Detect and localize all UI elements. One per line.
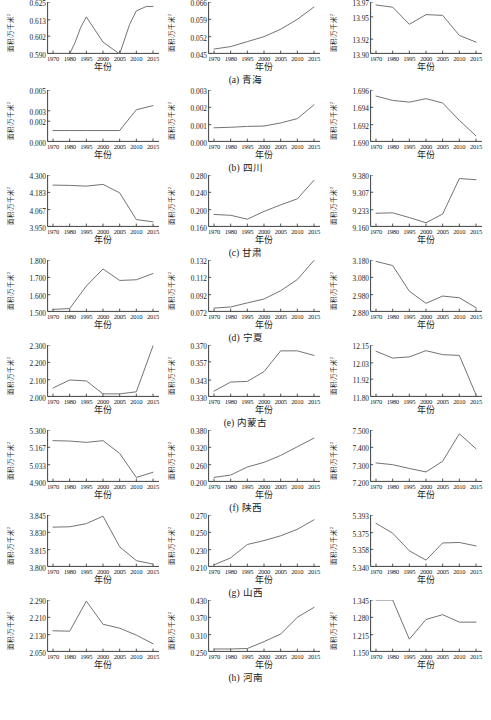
y-tick-label: 3.800 bbox=[30, 565, 46, 572]
y-tick-label: 0.380 bbox=[191, 428, 207, 435]
y-tick-label: 13.92 bbox=[353, 37, 369, 44]
plot-area bbox=[47, 515, 159, 567]
y-tick-label: 0.343 bbox=[191, 378, 207, 385]
y-tick-labels: 13.9013.9213.9513.97 bbox=[336, 2, 369, 54]
data-series-line bbox=[53, 346, 153, 394]
y-tick-label: 0.230 bbox=[191, 548, 207, 555]
x-axis-label: 年份 bbox=[47, 490, 159, 501]
y-tick-labels: 0.2100.2300.2500.270 bbox=[174, 515, 207, 567]
chart-row: 面积/万千米21.5001.6001.7001.8001970198019952… bbox=[0, 258, 491, 343]
small-multiples-figure: 面积/万千米20.5900.6020.6130.6251970198019952… bbox=[0, 0, 491, 720]
y-tick-label: 1.690 bbox=[353, 140, 369, 147]
y-tick-label: 0.625 bbox=[30, 0, 46, 7]
plot-area bbox=[47, 345, 159, 397]
y-tick-label: 0.003 bbox=[191, 88, 207, 95]
chart-panel-e3: 面积/万千米211.8011.9212.0312.151970198019952… bbox=[325, 343, 488, 415]
row-caption-index: (h) bbox=[228, 672, 239, 683]
row-caption-name: 河南 bbox=[243, 672, 263, 683]
y-tick-label: 0.357 bbox=[191, 360, 207, 367]
y-tick-label: 3.180 bbox=[353, 258, 369, 265]
data-series-line bbox=[214, 607, 314, 649]
y-tick-labels: 0.2000.2600.3200.380 bbox=[174, 430, 207, 482]
plot-area bbox=[370, 175, 482, 227]
y-tick-label: 0.210 bbox=[191, 565, 207, 572]
data-series-line bbox=[376, 261, 476, 307]
row-caption-index: (e) bbox=[224, 417, 235, 428]
row-caption: (a)青海 bbox=[0, 74, 491, 86]
data-series-line bbox=[214, 105, 314, 128]
y-tick-label: 5.167 bbox=[30, 446, 46, 453]
y-tick-label: 3.950 bbox=[30, 225, 46, 232]
plot-area bbox=[208, 600, 320, 652]
x-axis-label: 年份 bbox=[208, 62, 320, 73]
plot-area bbox=[370, 260, 482, 312]
data-series-line bbox=[376, 179, 476, 223]
y-tick-label: 0.059 bbox=[191, 18, 207, 25]
y-tick-label: 2.880 bbox=[353, 310, 369, 317]
chart-panel-e2: 面积/万千米20.3300.3430.3570.3701970198019952… bbox=[163, 343, 326, 415]
y-tick-label: 11.80 bbox=[353, 395, 369, 402]
y-tick-label: 0.112 bbox=[191, 276, 207, 283]
y-tick-labels: 4.9005.0335.1675.300 bbox=[13, 430, 46, 482]
x-axis-label: 年份 bbox=[208, 575, 320, 586]
y-tick-label: 1.700 bbox=[30, 276, 46, 283]
x-axis-label: 年份 bbox=[370, 660, 482, 671]
y-tick-labels: 0.2500.3100.3700.430 bbox=[174, 600, 207, 652]
data-series-line bbox=[214, 180, 314, 219]
y-tick-label: 0.005 bbox=[30, 88, 46, 95]
chart-panel-g2: 面积/万千米20.2100.2300.2500.2701970198019952… bbox=[163, 513, 326, 585]
y-tick-label: 0.092 bbox=[191, 293, 207, 300]
y-tick-label: 0.052 bbox=[191, 35, 207, 42]
row-caption-name: 青海 bbox=[242, 74, 262, 85]
chart-panel-h2: 面积/万千米20.2500.3100.3700.4301970198019952… bbox=[163, 598, 326, 670]
y-tick-label: 0.200 bbox=[191, 208, 207, 215]
chart-panel-b3: 面积/万千米21.6901.6921.6941.6961970198019952… bbox=[325, 88, 488, 160]
y-tick-labels: 7.2007.3007.4007.500 bbox=[336, 430, 369, 482]
x-axis-label: 年份 bbox=[208, 320, 320, 331]
y-tick-label: 13.97 bbox=[353, 0, 369, 7]
y-tick-label: 7.500 bbox=[353, 428, 369, 435]
data-series-line bbox=[53, 269, 153, 309]
chart-row: 面积/万千米23.9504.0674.1834.3001970198019952… bbox=[0, 173, 491, 258]
y-tick-label: 0.270 bbox=[191, 513, 207, 520]
chart-panel-d1: 面积/万千米21.5001.6001.7001.8001970198019952… bbox=[2, 258, 165, 330]
y-tick-label: 2.130 bbox=[30, 633, 46, 640]
y-tick-label: 5.300 bbox=[30, 428, 46, 435]
y-tick-label: 0.613 bbox=[30, 18, 46, 25]
x-axis-label: 年份 bbox=[208, 660, 320, 671]
chart-panel-d2: 面积/万千米20.0720.0920.1120.1321970198019952… bbox=[163, 258, 326, 330]
y-tick-labels: 1.5001.6001.7001.800 bbox=[13, 260, 46, 312]
x-axis-label: 年份 bbox=[47, 575, 159, 586]
y-tick-label: 5.375 bbox=[353, 531, 369, 538]
plot-area bbox=[208, 90, 320, 142]
row-caption: (h)河南 bbox=[0, 672, 491, 684]
y-tick-label: 0.000 bbox=[30, 140, 46, 147]
y-tick-label: 7.400 bbox=[353, 446, 369, 453]
chart-panel-h3: 面积/万千米21.1501.2151.2801.3451970198019952… bbox=[325, 598, 488, 670]
data-series-line bbox=[376, 351, 476, 395]
chart-row: 面积/万千米20.5900.6020.6130.6251970198019952… bbox=[0, 0, 491, 88]
y-tick-label: 5.358 bbox=[353, 548, 369, 555]
y-tick-labels: 2.8802.9803.0803.180 bbox=[336, 260, 369, 312]
chart-panel-f1: 面积/万千米24.9005.0335.1675.3001970198019952… bbox=[2, 428, 165, 500]
x-axis-label: 年份 bbox=[370, 490, 482, 501]
data-series-line bbox=[376, 600, 476, 639]
row-caption-name: 内蒙古 bbox=[237, 417, 267, 428]
y-tick-label: 0.310 bbox=[191, 633, 207, 640]
y-tick-label: 0.602 bbox=[30, 35, 46, 42]
y-tick-labels: 1.6901.6921.6941.696 bbox=[336, 90, 369, 142]
y-tick-label: 2.300 bbox=[30, 343, 46, 350]
y-tick-label: 1.694 bbox=[353, 106, 369, 113]
y-tick-label: 7.300 bbox=[353, 463, 369, 470]
chart-panel-e1: 面积/万千米22.0002.1002.2002.3001970198019952… bbox=[2, 343, 165, 415]
y-tick-label: 0.330 bbox=[191, 395, 207, 402]
x-axis-label: 年份 bbox=[370, 575, 482, 586]
y-tick-label: 0.320 bbox=[191, 446, 207, 453]
y-tick-labels: 0.0720.0920.1120.132 bbox=[174, 260, 207, 312]
x-axis-label: 年份 bbox=[370, 235, 482, 246]
y-tick-label: 1.692 bbox=[353, 123, 369, 130]
y-tick-label: 1.150 bbox=[353, 650, 369, 657]
y-tick-label: 0.066 bbox=[191, 0, 207, 7]
x-axis-label: 年份 bbox=[47, 62, 159, 73]
x-axis-label: 年份 bbox=[208, 235, 320, 246]
